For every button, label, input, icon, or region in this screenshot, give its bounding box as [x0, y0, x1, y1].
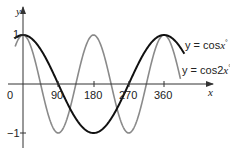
- trig-graph: 0 90 180 270 360 1 −1 x y y = cosx° y = …: [0, 0, 230, 153]
- x-tick-label-0: 0: [7, 89, 13, 101]
- legend-cosx: y = cosx°: [185, 39, 228, 51]
- x-tick-label-360: 360: [154, 89, 172, 101]
- y-axis-label: y: [15, 5, 21, 17]
- y-tick-label-1: 1: [13, 28, 19, 40]
- x-tick-label-270: 270: [119, 89, 137, 101]
- y-tick-label-neg1: −1: [7, 127, 20, 139]
- x-tick-label-90: 90: [51, 89, 63, 101]
- x-tick-label-180: 180: [84, 89, 102, 101]
- x-axis-label: x: [207, 86, 213, 98]
- legend-cos2x: y = cos2x°: [182, 64, 230, 76]
